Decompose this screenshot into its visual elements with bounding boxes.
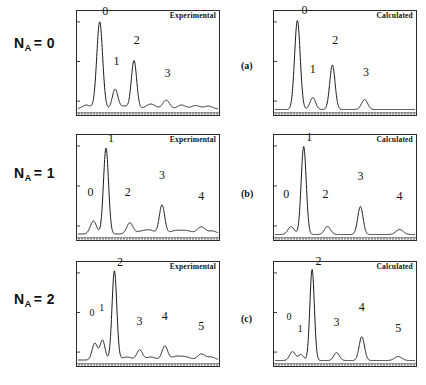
panel-letter-a: (a) — [241, 60, 253, 71]
row-label-subscript: A — [25, 173, 32, 183]
peak-label-0: 0 — [283, 188, 289, 200]
row-label-prefix: N — [14, 291, 25, 307]
panel-b-calculated: Calculated 01234 — [273, 134, 417, 241]
peak-label-5: 5 — [198, 320, 204, 332]
peak-label-1: 1 — [306, 131, 312, 143]
row-label-prefix: N — [14, 35, 25, 51]
peak-label-2: 2 — [125, 186, 131, 198]
spectrum-plot-c-calculated — [273, 261, 417, 367]
plot-title-experimental: Experimental — [169, 262, 217, 271]
spectrum-plot-b-experimental — [76, 134, 220, 241]
peak-label-1: 1 — [310, 63, 316, 75]
row-label-value: = 1 — [34, 165, 55, 181]
spectrum-plot-c-experimental — [76, 261, 220, 367]
row-label-prefix: N — [14, 165, 25, 181]
peak-label-4: 4 — [359, 301, 365, 313]
peak-label-0: 0 — [287, 312, 292, 322]
panel-c-experimental: Experimental 012345 — [76, 261, 220, 367]
peak-label-1: 1 — [298, 324, 303, 334]
plot-title-experimental: Experimental — [169, 11, 217, 20]
peak-label-2: 2 — [322, 188, 328, 200]
peak-label-3: 3 — [334, 316, 340, 328]
peak-label-3: 3 — [363, 66, 369, 78]
spectrum-plot-b-calculated — [273, 134, 417, 241]
row-label-na-0: NA= 0 — [14, 35, 55, 53]
peak-label-3: 3 — [165, 67, 171, 79]
plot-title-calculated: Calculated — [375, 135, 414, 144]
peak-label-3: 3 — [137, 315, 143, 327]
panel-b-experimental: Experimental 01234 — [76, 134, 220, 241]
peak-label-3: 3 — [159, 169, 165, 181]
peak-label-0: 0 — [90, 308, 95, 318]
row-label-subscript: A — [25, 43, 32, 53]
plot-title-calculated: Calculated — [375, 262, 414, 271]
row-label-value: = 2 — [34, 291, 55, 307]
peak-label-2: 2 — [315, 255, 321, 267]
row-label-subscript: A — [25, 299, 32, 309]
peak-label-0: 0 — [102, 5, 108, 17]
peak-label-0: 0 — [301, 4, 307, 16]
panel-letter-c: (c) — [241, 313, 252, 324]
peak-label-2: 2 — [332, 34, 338, 46]
peak-label-1: 1 — [114, 55, 120, 67]
peak-label-4: 4 — [397, 190, 403, 202]
peak-label-5: 5 — [395, 322, 401, 334]
plot-title-experimental: Experimental — [169, 135, 217, 144]
peak-label-1: 1 — [108, 132, 114, 144]
row-label-value: = 0 — [34, 35, 55, 51]
panel-letter-b: (b) — [241, 188, 253, 199]
peak-label-1: 1 — [99, 303, 104, 313]
row-label-na-2: NA= 2 — [14, 291, 55, 309]
spectrum-plot-a-experimental — [76, 10, 220, 116]
peak-label-4: 4 — [198, 190, 204, 202]
spectrum-plot-a-calculated — [273, 10, 417, 116]
peak-label-2: 2 — [134, 34, 140, 46]
spectra-figure: NA= 0 (a) Experimental 0123 Calculated 0… — [0, 0, 426, 385]
panel-a-calculated: Calculated 0123 — [273, 10, 417, 116]
peak-label-2: 2 — [117, 256, 123, 268]
peak-label-4: 4 — [162, 310, 168, 322]
panel-c-calculated: Calculated 012345 — [273, 261, 417, 367]
plot-title-calculated: Calculated — [375, 11, 414, 20]
row-label-na-1: NA= 1 — [14, 165, 55, 183]
peak-label-0: 0 — [88, 186, 94, 198]
panel-a-experimental: Experimental 0123 — [76, 10, 220, 116]
peak-label-3: 3 — [357, 170, 363, 182]
